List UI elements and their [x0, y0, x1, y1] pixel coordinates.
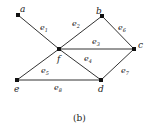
edge-label-e7: e7 [121, 66, 130, 76]
edge-e5 [17, 49, 59, 80]
graph-diagram: a b c f e d e1 e2 e3 e4 e5 e6 e7 e8 (b) [0, 0, 149, 127]
edge-label-e6: e6 [118, 23, 127, 33]
node-d [99, 78, 103, 82]
node-f [57, 47, 61, 51]
node-label-d: d [98, 84, 104, 94]
edge-label-e4: e4 [84, 54, 92, 64]
node-label-e: e [14, 84, 19, 94]
edge-label-e2: e2 [72, 19, 80, 29]
edge-e6 [102, 16, 134, 49]
figure-caption: (b) [73, 113, 86, 123]
node-label-a: a [20, 4, 25, 14]
edge-e4 [59, 49, 101, 80]
edge-label-e8: e8 [54, 83, 62, 93]
node-e [15, 78, 19, 82]
edge-e7 [101, 49, 134, 80]
edge-label-e5: e5 [41, 66, 49, 76]
node-c [132, 47, 136, 51]
node-label-f: f [56, 54, 62, 64]
node-label-c: c [138, 40, 143, 50]
edge-label-e3: e3 [92, 37, 100, 47]
edge-label-e1: e1 [40, 23, 48, 33]
edge-e1 [18, 15, 59, 49]
node-label-b: b [96, 6, 102, 16]
